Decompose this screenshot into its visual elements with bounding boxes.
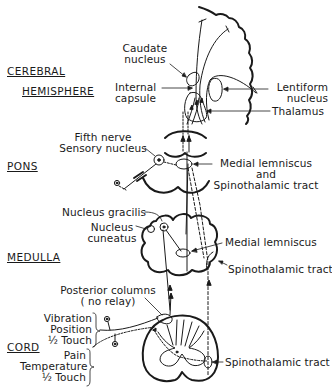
region-label-hemisphere: HEMISPHERE: [22, 86, 94, 97]
modality-half-touch-ventral: ½ Touch: [20, 372, 86, 383]
label-nucleus-gracilis: Nucleus gracilis: [62, 207, 146, 218]
modality-half-touch-dorsal: ½ Touch: [36, 335, 92, 346]
posterior-columns-line-2: ( no relay): [58, 296, 158, 307]
label-medulla-medial-lemniscus: Medial lemniscus: [225, 237, 317, 248]
label-dorsal-modalities: Vibration Position ½ Touch: [36, 313, 92, 346]
cerebral-hemisphere-drawing: [183, 7, 257, 134]
label-lentiform-nucleus: Lentiform nucleus: [266, 82, 328, 104]
label-pons-tracts: Medial lemniscus and Spinothalamic tract: [212, 158, 320, 191]
nucleus-cuneatus-circle: [148, 226, 155, 233]
lentiform-nucleus-shape: [209, 78, 223, 101]
nucleus-cuneatus-line-2: cuneatus: [86, 233, 138, 244]
pons-tracts-line-3: Spinothalamic tract: [212, 180, 320, 191]
region-label-pons: PONS: [7, 161, 38, 172]
label-medulla-spinothalamic-tract: Spinothalamic tract: [228, 264, 332, 275]
label-ventral-modalities: Pain Temperature ½ Touch: [20, 350, 86, 383]
caudate-nucleus-shape: [187, 72, 200, 86]
pons-tract-ellipse: [176, 159, 192, 169]
label-posterior-columns: Posterior columns ( no relay): [58, 285, 158, 307]
internal-capsule-line-2: capsule: [115, 93, 156, 104]
fifth-nerve-line-2: Sensory nucleus: [58, 143, 148, 154]
label-thalamus: Thalamus: [272, 106, 324, 117]
label-nucleus-cuneatus: Nucleus cuneatus: [86, 222, 138, 244]
label-fifth-nerve-sensory-nucleus: Fifth nerve Sensory nucleus: [58, 132, 148, 154]
cord-outline: [143, 316, 218, 382]
medulla-medial-lemniscus: [176, 249, 190, 257]
label-internal-capsule: Internal capsule: [115, 82, 156, 104]
caudate-line-2: nucleus: [114, 54, 176, 65]
label-caudate-nucleus: Caudate nucleus: [114, 43, 176, 65]
region-label-medulla: MEDULLA: [7, 252, 60, 263]
label-cord-spinothalamic-tract: Spinothalamic tract: [225, 357, 330, 368]
region-label-cerebral: CEREBRAL: [7, 66, 65, 77]
lentiform-line-2: nucleus: [266, 93, 328, 104]
sensory-pathways-diagram: CEREBRAL HEMISPHERE PONS MEDULLA CORD Ca…: [0, 0, 332, 392]
